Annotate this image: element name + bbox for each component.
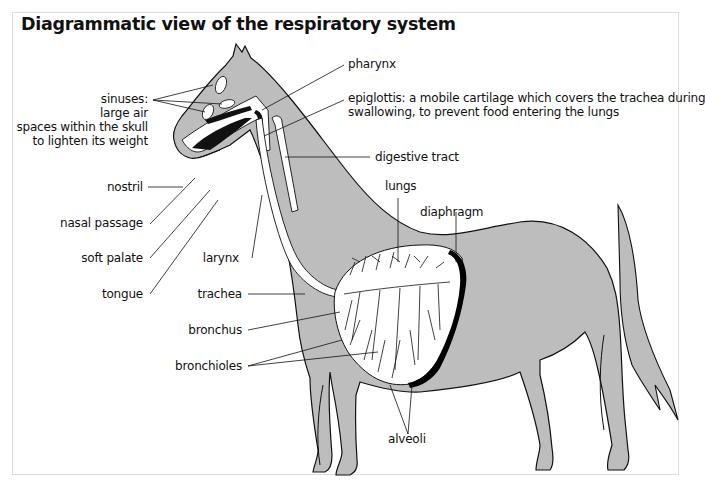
- label-sinuses-line1: sinuses:: [17, 92, 149, 106]
- label-pharynx: pharynx: [348, 57, 396, 71]
- label-tongue: tongue: [102, 287, 143, 301]
- label-soft-palate: soft palate: [81, 251, 143, 265]
- label-nostril: nostril: [107, 180, 143, 194]
- label-alveoli: alveoli: [388, 432, 426, 446]
- label-epiglottis-line1: epiglottis: a mobile cartilage which cov…: [348, 91, 705, 105]
- label-digestive-tract: digestive tract: [375, 150, 459, 164]
- label-epiglottis: epiglottis: a mobile cartilage which cov…: [348, 91, 705, 119]
- label-sinuses: sinuses: large air spaces within the sku…: [17, 92, 149, 148]
- label-epiglottis-line2: swallowing, to prevent food entering the…: [348, 105, 705, 119]
- label-larynx: larynx: [203, 251, 239, 265]
- label-lungs: lungs: [385, 179, 416, 193]
- horse-tail: [618, 205, 678, 420]
- label-sinuses-line4: to lighten its weight: [17, 134, 149, 148]
- label-trachea: trachea: [197, 287, 242, 301]
- label-sinuses-line2: large air: [17, 106, 149, 120]
- label-sinuses-line3: spaces within the skull: [17, 120, 149, 134]
- label-bronchus: bronchus: [188, 323, 242, 337]
- label-bronchioles: bronchioles: [175, 359, 242, 373]
- label-nasal-passage: nasal passage: [60, 216, 143, 230]
- label-diaphragm: diaphragm: [420, 205, 483, 219]
